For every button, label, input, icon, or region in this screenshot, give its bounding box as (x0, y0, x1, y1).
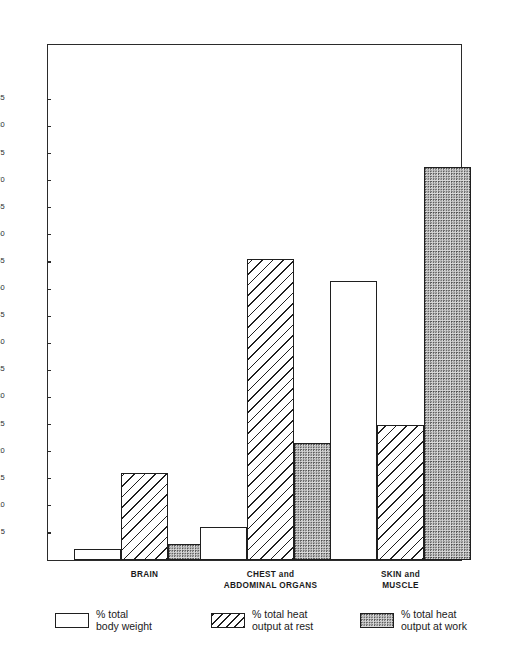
legend-swatch-heat-work (360, 613, 394, 628)
bar-chart-figure: 858075706560555045403530252015105 BRAINC… (0, 0, 510, 667)
chart-legend: % total body weight% total heat output a… (55, 608, 475, 648)
legend-item-heat-rest[interactable]: % total heat output at rest (211, 608, 313, 632)
bars-layer: BRAINCHEST and ABDOMINAL ORGANSSKIN and … (0, 0, 510, 667)
bar-skin-heat-work (424, 167, 471, 560)
legend-swatch-heat-rest (211, 613, 245, 628)
bar-brain-body-weight (74, 549, 121, 560)
bar-skin-heat-rest (377, 425, 424, 561)
x-axis-group-label-brain: BRAIN (131, 570, 159, 581)
legend-label-heat-work: % total heat output at work (401, 608, 467, 632)
bar-skin-body-weight (330, 281, 377, 560)
x-axis-group-label-skin: SKIN and MUSCLE (381, 570, 420, 591)
bar-chest-body-weight (200, 527, 247, 560)
bar-chest-heat-rest (247, 259, 294, 560)
x-axis-group-label-chest: CHEST and ABDOMINAL ORGANS (224, 570, 318, 591)
legend-label-heat-rest: % total heat output at rest (252, 608, 313, 632)
legend-label-body-weight: % total body weight (96, 608, 152, 632)
bar-brain-heat-rest (121, 473, 168, 560)
legend-item-heat-work[interactable]: % total heat output at work (360, 608, 467, 632)
legend-swatch-body-weight (55, 613, 89, 628)
legend-item-body-weight[interactable]: % total body weight (55, 608, 152, 632)
